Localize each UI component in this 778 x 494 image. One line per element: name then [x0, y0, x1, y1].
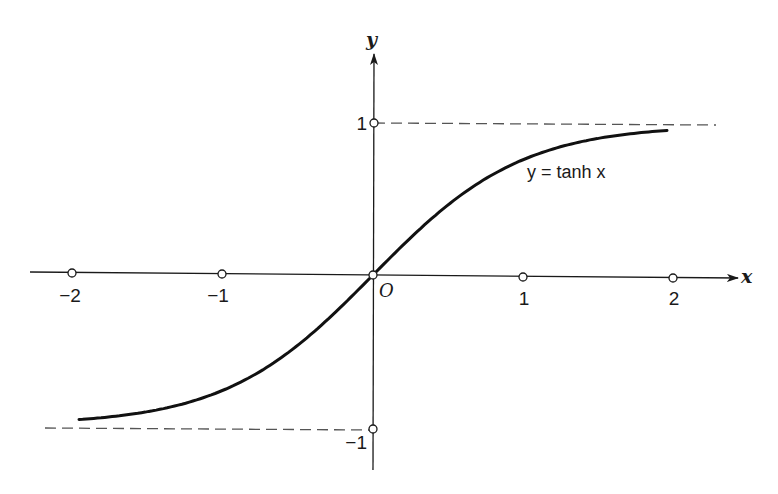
x-axis — [30, 272, 738, 278]
asymptote-upper — [374, 123, 716, 125]
asymptote-lower — [45, 428, 372, 430]
y-tick-label-1: 1 — [356, 113, 367, 134]
y-tick-label-neg1: −1 — [345, 432, 367, 453]
x-tick-label-2: 2 — [669, 288, 680, 309]
x-tick-label-1: 1 — [519, 288, 530, 309]
tanh-plot: −2 −1 1 2 1 −1 O x y y = tanh x — [0, 0, 778, 494]
x-tick-label-neg1: −1 — [207, 285, 229, 306]
tick-x-1 — [519, 273, 527, 281]
tick-y-1 — [370, 119, 378, 127]
origin-label: O — [379, 280, 394, 301]
y-axis-label: y — [365, 28, 379, 50]
tick-x-neg2 — [68, 269, 76, 277]
tick-x-2 — [669, 274, 677, 282]
x-tick-label-neg2: −2 — [59, 285, 81, 306]
origin-point — [369, 271, 377, 279]
tick-x-neg1 — [218, 270, 226, 278]
y-axis — [373, 54, 374, 470]
tick-y-neg1 — [369, 425, 377, 433]
curve-label: y = tanh x — [527, 162, 606, 182]
x-axis-label: x — [740, 265, 753, 287]
